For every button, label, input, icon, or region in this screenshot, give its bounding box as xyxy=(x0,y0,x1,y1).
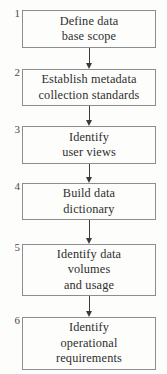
step-number-label: 4 xyxy=(6,180,20,192)
step-text-line: user views xyxy=(62,145,116,161)
connector-arrow-5-to-6 xyxy=(88,296,91,317)
step-box: Identifyoperationalrequirements xyxy=(22,317,156,370)
arrow-shaft xyxy=(89,220,90,239)
step-text-line: Establish metadata xyxy=(41,72,136,88)
step-box: Build datadictionary xyxy=(22,183,156,220)
flowchart-step-2: 2Establish metadatacollection standards xyxy=(22,69,156,106)
step-text-line: base scope xyxy=(62,29,116,45)
flowchart-step-5: 5Identify datavolumesand usage xyxy=(22,244,156,296)
step-text-line: dictionary xyxy=(63,202,114,218)
step-text-line: volumes xyxy=(68,262,111,278)
step-number-label: 6 xyxy=(6,314,20,326)
step-box: Establish metadatacollection standards xyxy=(22,69,156,106)
step-text-line: Build data xyxy=(63,186,115,202)
arrow-shaft xyxy=(89,296,90,312)
step-text-line: Identify xyxy=(69,130,109,146)
connector-arrow-1-to-2 xyxy=(88,48,91,69)
flowchart-step-1: 1Define database scope xyxy=(22,10,156,48)
step-text-line: Identify data xyxy=(57,247,121,263)
arrow-shaft xyxy=(89,106,90,121)
step-text-line: Identify xyxy=(69,320,109,336)
step-box: Identify datavolumesand usage xyxy=(22,244,156,296)
flowchart-step-6: 6Identifyoperationalrequirements xyxy=(22,317,156,370)
step-text-line: Define data xyxy=(60,14,119,30)
connector-arrow-4-to-5 xyxy=(88,220,91,244)
step-number-label: 2 xyxy=(6,66,20,78)
arrow-shaft xyxy=(89,48,90,64)
step-number-label: 3 xyxy=(6,123,20,135)
flowchart-step-4: 4Build datadictionary xyxy=(22,183,156,220)
arrow-shaft xyxy=(89,164,90,178)
flowchart-diagram: 1Define database scope2Establish metadat… xyxy=(0,0,167,374)
step-box: Define database scope xyxy=(22,10,156,48)
step-box: Identifyuser views xyxy=(22,126,156,164)
step-number-label: 1 xyxy=(6,7,20,19)
step-text-line: collection standards xyxy=(38,88,139,104)
step-text-line: requirements xyxy=(56,351,122,367)
step-text-line: operational xyxy=(61,336,118,352)
step-number-label: 5 xyxy=(6,241,20,253)
connector-arrow-2-to-3 xyxy=(88,106,91,126)
step-text-line: and usage xyxy=(64,278,114,294)
flowchart-step-3: 3Identifyuser views xyxy=(22,126,156,164)
connector-arrow-3-to-4 xyxy=(88,164,91,183)
